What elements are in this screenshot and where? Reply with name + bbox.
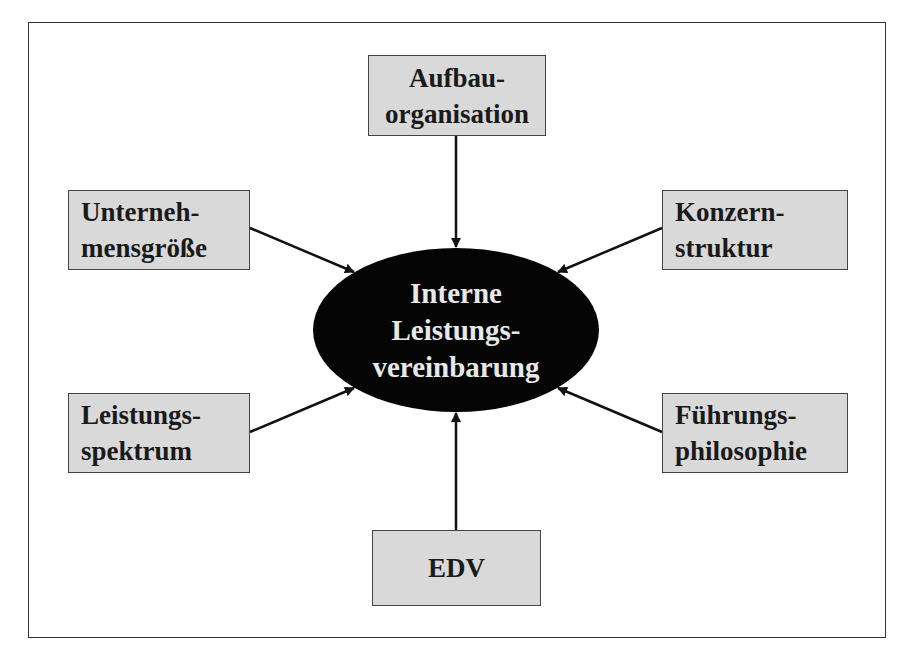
- center-line-3: vereinbarung: [372, 349, 539, 386]
- factor-label-line: Konzern-: [675, 194, 784, 230]
- factor-label-line: mensgröße: [81, 230, 207, 266]
- factor-label-line: Aufbau-: [409, 60, 505, 96]
- factor-box-aufbauorganisation: Aufbau- organisation: [368, 55, 546, 136]
- factor-label-line: Führungs-: [675, 397, 797, 433]
- factor-label-line: Unterneh-: [81, 194, 199, 230]
- arrow-leistungsspektrum: [250, 388, 354, 432]
- arrow-konzernstruktur: [558, 228, 662, 272]
- factor-label-line: struktur: [675, 230, 773, 266]
- factor-label-line: EDV: [428, 550, 485, 586]
- arrow-fuehrungsphilosophie: [558, 388, 662, 432]
- factor-label-line: spektrum: [81, 433, 192, 469]
- center-line-1: Interne: [410, 275, 502, 312]
- central-node-interne-leistungsvereinbarung: Interne Leistungs- vereinbarung: [313, 248, 599, 412]
- center-line-2: Leistungs-: [392, 312, 521, 349]
- factor-box-leistungsspektrum: Leistungs- spektrum: [68, 393, 250, 473]
- factor-box-edv: EDV: [372, 530, 541, 606]
- arrow-unternehmensgroesse: [250, 228, 354, 272]
- factor-box-konzernstruktur: Konzern- struktur: [662, 190, 848, 270]
- factor-box-fuehrungsphilosophie: Führungs- philosophie: [662, 393, 848, 473]
- factor-box-unternehmensgroesse: Unterneh- mensgröße: [68, 190, 250, 270]
- factor-label-line: philosophie: [675, 433, 807, 469]
- factor-label-line: organisation: [385, 96, 529, 132]
- factor-label-line: Leistungs-: [81, 397, 201, 433]
